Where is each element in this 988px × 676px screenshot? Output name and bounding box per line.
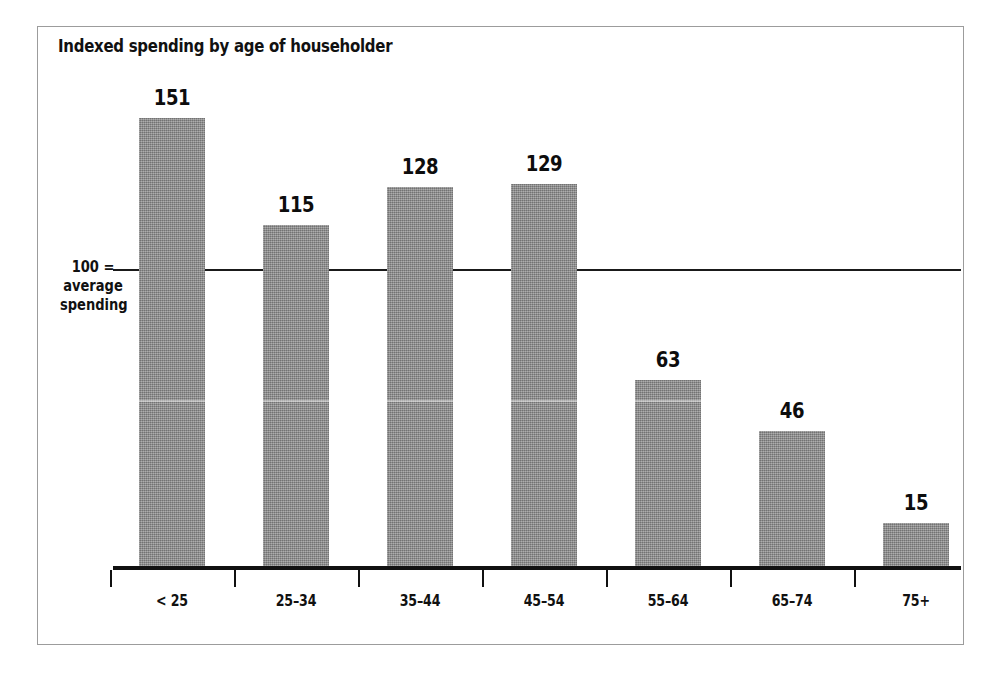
bar [139, 118, 205, 568]
x-axis-tick [110, 570, 112, 587]
bar [759, 431, 825, 568]
bar-value-label: 115 [263, 192, 329, 217]
x-axis-label: 55–64 [616, 592, 720, 610]
bar-value-label: 151 [139, 85, 205, 110]
x-axis-label: 25–34 [244, 592, 348, 610]
y-caption-line-2: average [60, 277, 126, 296]
bar-value-label: 129 [511, 151, 577, 176]
x-axis-label: 45–54 [492, 592, 596, 610]
bar [635, 380, 701, 568]
x-axis-tick [730, 570, 732, 587]
x-axis-label: 35–44 [368, 592, 472, 610]
bar-value-label: 15 [883, 490, 949, 515]
x-axis-tick [358, 570, 360, 587]
bar-value-label: 46 [759, 398, 825, 423]
x-axis-tick [482, 570, 484, 587]
bar [263, 225, 329, 568]
chart-figure: Indexed spending by age of householder 1… [0, 0, 988, 676]
x-axis-tick [606, 570, 608, 587]
bar-value-label: 128 [387, 154, 453, 179]
bar-value-label: 63 [635, 347, 701, 372]
x-axis-label: < 25 [120, 592, 224, 610]
y-caption-line-3: spending [60, 296, 126, 315]
y-caption-line-1: 100 = [60, 258, 126, 277]
bar [883, 523, 949, 568]
x-axis-tick [234, 570, 236, 587]
x-axis-tick [854, 570, 856, 587]
y-axis-caption: 100 = average spending [60, 258, 126, 316]
bar [387, 187, 453, 568]
bar [511, 184, 577, 568]
x-axis-label: 65–74 [740, 592, 844, 610]
x-axis-label: 75+ [864, 592, 968, 610]
plot-area: 100 = average spending 15111512812963461… [0, 0, 988, 676]
x-axis-line [113, 566, 961, 570]
